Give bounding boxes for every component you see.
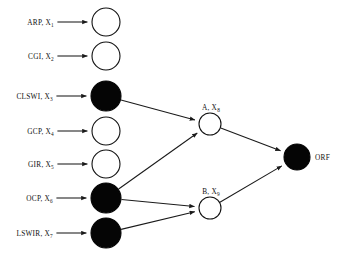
node-x7 — [91, 218, 121, 248]
label-x1: ARP, X1 — [27, 18, 54, 28]
edge-x6-to-a — [119, 133, 198, 189]
node-b — [199, 197, 221, 219]
edge-x6-to-b — [121, 199, 194, 206]
label-x7: LSWIR, X7 — [16, 229, 53, 239]
nodes — [91, 8, 310, 248]
edge-b-to-orf — [220, 166, 282, 202]
edge-x7-to-b — [121, 212, 195, 230]
node-a — [199, 113, 221, 135]
neural-network-diagram: ARP, X1CGI, X2CLSWI, X3GCP, X4GIR, X5OCP… — [0, 0, 344, 255]
edge-x3-to-a — [121, 100, 195, 120]
node-x4 — [92, 117, 120, 145]
node-labels: ARP, X1CGI, X2CLSWI, X3GCP, X4GIR, X5OCP… — [16, 18, 329, 239]
node-x1 — [92, 8, 120, 36]
label-orf: ORF — [315, 153, 330, 162]
node-x3 — [91, 81, 121, 111]
node-x6 — [91, 183, 121, 213]
diagram-canvas: ARP, X1CGI, X2CLSWI, X3GCP, X4GIR, X5OCP… — [0, 0, 344, 255]
edge-a-to-orf — [221, 128, 281, 151]
node-orf — [284, 144, 310, 170]
input-arrows — [56, 22, 87, 233]
label-x5: GIR, X5 — [28, 160, 54, 170]
label-b: B, X9 — [202, 187, 220, 197]
label-x3: CLSWI, X3 — [16, 92, 53, 102]
label-a: A, X8 — [202, 103, 220, 113]
node-x5 — [92, 150, 120, 178]
node-x2 — [92, 42, 120, 70]
label-x2: CGI, X2 — [28, 52, 54, 62]
label-x6: OCP, X6 — [26, 194, 53, 204]
label-x4: GCP, X4 — [27, 127, 54, 137]
